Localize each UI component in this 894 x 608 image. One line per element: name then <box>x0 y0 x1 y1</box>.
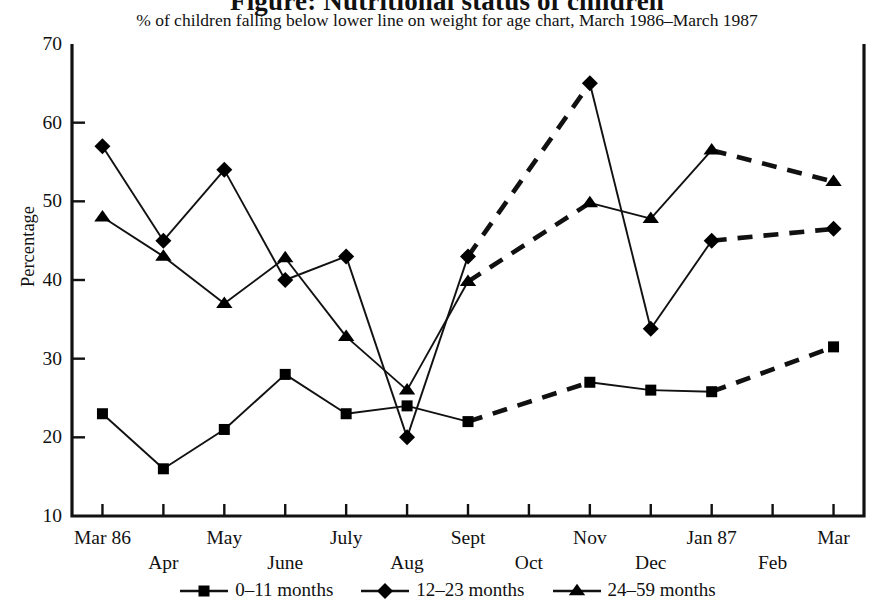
legend-label: 24–59 months <box>608 580 716 599</box>
legend-label: 12–23 months <box>416 580 524 599</box>
x-axis-tick-label: Sept <box>451 528 486 548</box>
x-axis-tick-label: Mar 86 <box>74 528 131 548</box>
legend-item[interactable]: 12–23 months <box>359 578 524 600</box>
x-axis-tick-label: Jan 87 <box>687 528 737 548</box>
x-axis-tick-labels: Mar 86AprMayJuneJulyAugSeptOctNovDecJan … <box>0 0 894 608</box>
x-axis-tick-label: Mar <box>817 528 850 548</box>
x-axis-tick-label: July <box>330 528 363 548</box>
legend-point-diamond <box>377 583 393 599</box>
x-axis-tick-label: Dec <box>635 553 666 573</box>
chart-container: Figure: Nutritional status of children %… <box>0 0 894 608</box>
x-axis-tick-label: Aug <box>390 553 424 573</box>
x-axis-tick-label: Nov <box>573 528 607 548</box>
legend-marker-square-icon <box>178 578 230 600</box>
legend-point-square <box>199 586 210 597</box>
x-axis-tick-label: Oct <box>515 553 543 573</box>
legend-label: 0–11 months <box>235 580 333 599</box>
legend-marker-triangle-icon <box>551 578 603 600</box>
legend-item[interactable]: 24–59 months <box>551 578 716 600</box>
legend-item[interactable]: 0–11 months <box>178 578 333 600</box>
chart-legend: 0–11 months12–23 months24–59 months <box>0 578 894 600</box>
x-axis-tick-label: Apr <box>148 553 178 573</box>
legend-marker-diamond-icon <box>359 578 411 600</box>
legend-point-triangle <box>568 584 584 596</box>
x-axis-tick-label: May <box>206 528 242 548</box>
x-axis-tick-label: June <box>267 553 303 573</box>
x-axis-tick-label: Feb <box>758 553 787 573</box>
